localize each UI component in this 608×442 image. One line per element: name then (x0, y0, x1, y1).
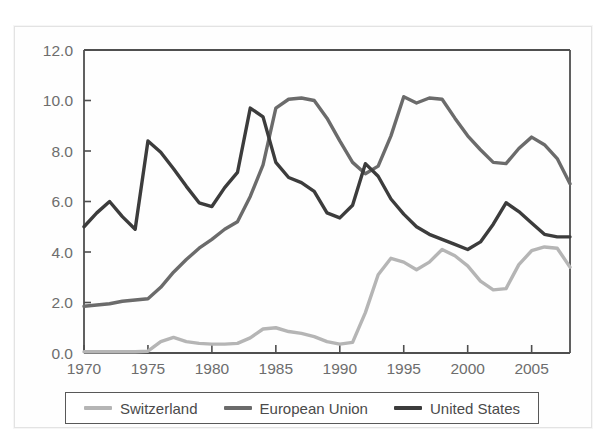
x-axis-tick-labels: 19701975198019851990199520002005 (67, 360, 549, 377)
y-tick-label: 2.0 (51, 294, 73, 311)
series-line-european-union (84, 97, 570, 307)
legend-item-united-states[interactable]: United States (381, 400, 533, 417)
x-tick-label: 1975 (131, 360, 165, 377)
chart-legend: Switzerland European Union United States (65, 392, 539, 424)
data-series-group (84, 97, 570, 352)
y-axis-tick-labels: 0.02.04.06.08.010.012.0 (43, 42, 74, 362)
y-tick-label: 8.0 (51, 143, 73, 160)
legend-swatch-switzerland (84, 406, 112, 410)
x-tick-label: 1980 (195, 360, 230, 377)
y-tick-label: 12.0 (43, 42, 74, 59)
legend-swatch-united-states (394, 406, 422, 410)
x-tick-label: 2005 (514, 360, 548, 377)
x-tick-label: 1990 (323, 360, 358, 377)
x-tick-label: 1985 (259, 360, 293, 377)
series-line-united-states (84, 108, 570, 249)
x-tick-label: 1970 (67, 360, 102, 377)
x-tick-label: 1995 (386, 360, 420, 377)
line-chart-svg: 0.02.04.06.08.010.012.0 1970197519801985… (0, 0, 608, 442)
legend-label-united-states: United States (430, 400, 520, 417)
legend-label-switzerland: Switzerland (120, 400, 198, 417)
series-line-switzerland (84, 247, 570, 352)
legend-label-european-union: European Union (260, 400, 368, 417)
y-tick-label: 10.0 (43, 92, 74, 109)
y-tick-label: 4.0 (51, 244, 73, 261)
plot-area: 0.02.04.06.08.010.012.0 1970197519801985… (0, 0, 608, 442)
y-tick-label: 6.0 (51, 193, 73, 210)
y-tick-label: 0.0 (51, 345, 73, 362)
legend-item-european-union[interactable]: European Union (211, 400, 381, 417)
chart-figure: 0.02.04.06.08.010.012.0 1970197519801985… (0, 0, 608, 442)
x-tick-label: 2000 (450, 360, 485, 377)
legend-item-switzerland[interactable]: Switzerland (71, 400, 211, 417)
axis-spines (84, 50, 570, 353)
legend-swatch-european-union (224, 406, 252, 410)
